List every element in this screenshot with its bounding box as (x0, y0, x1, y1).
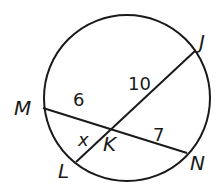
chord-diagram: M J N L K 6 10 7 x (0, 0, 220, 196)
segment-label-lk: x (77, 129, 89, 150)
point-label-j: J (195, 30, 205, 54)
circle (44, 15, 210, 181)
chord-lj (76, 51, 195, 162)
segment-label-kj: 10 (128, 73, 151, 94)
point-label-k: K (103, 132, 118, 156)
point-label-l: L (58, 159, 69, 183)
segment-label-kn: 7 (153, 124, 164, 145)
point-label-m: M (14, 96, 31, 120)
point-label-n: N (190, 151, 205, 175)
segment-label-mk: 6 (73, 89, 84, 110)
